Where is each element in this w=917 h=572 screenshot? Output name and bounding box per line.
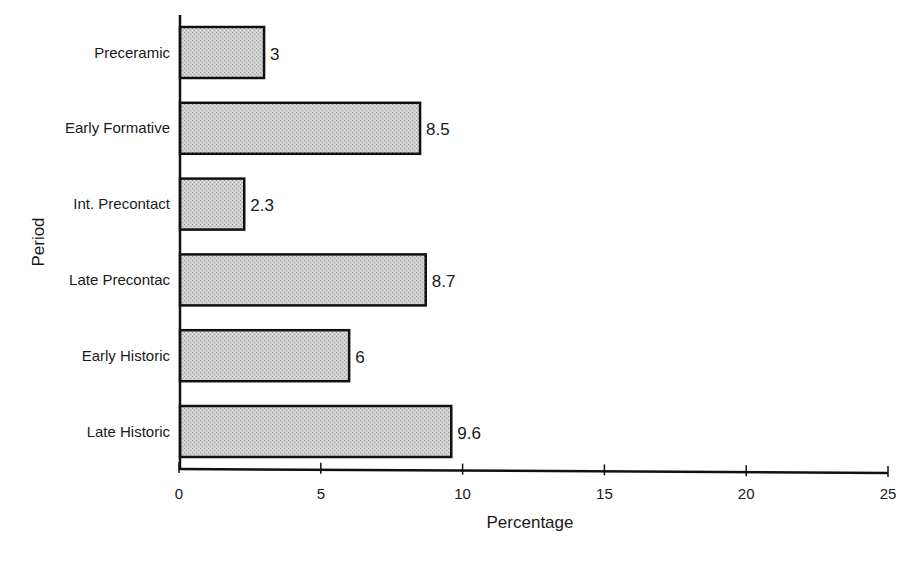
bar-late-historic bbox=[180, 406, 451, 457]
value-label-late-precontac: 8.7 bbox=[432, 272, 456, 291]
x-axis-tick-labels: 0510152025 bbox=[175, 485, 897, 502]
x-tick-label-5: 5 bbox=[317, 485, 325, 502]
x-tick-label-25: 25 bbox=[880, 485, 897, 502]
bar-late-precontac bbox=[180, 254, 426, 305]
category-label-early-formative: Early Formative bbox=[65, 119, 170, 136]
x-tick-label-10: 10 bbox=[454, 485, 471, 502]
value-label-late-historic: 9.6 bbox=[457, 424, 481, 443]
category-label-late-historic: Late Historic bbox=[87, 423, 171, 440]
value-label-int-precontact: 2.3 bbox=[250, 196, 274, 215]
category-label-early-historic: Early Historic bbox=[82, 347, 171, 364]
bar-preceramic bbox=[180, 27, 264, 78]
value-label-early-historic: 6 bbox=[355, 348, 364, 367]
x-axis-line bbox=[179, 469, 888, 473]
bars-group bbox=[180, 27, 451, 457]
category-label-int-precontact: Int. Precontact bbox=[73, 195, 171, 212]
bar-int-precontact bbox=[180, 179, 244, 230]
x-axis-title: Percentage bbox=[487, 513, 574, 532]
x-tick-label-0: 0 bbox=[175, 485, 183, 502]
category-label-late-precontac: Late Precontac bbox=[69, 271, 170, 288]
x-tick-label-15: 15 bbox=[596, 485, 613, 502]
bar-early-historic bbox=[180, 330, 349, 381]
value-label-preceramic: 3 bbox=[270, 45, 279, 64]
bar-early-formative bbox=[180, 103, 420, 154]
bar-chart: PreceramicEarly FormativeInt. Precontact… bbox=[0, 0, 917, 572]
category-labels: PreceramicEarly FormativeInt. Precontact… bbox=[65, 44, 171, 440]
value-label-early-formative: 8.5 bbox=[426, 120, 450, 139]
x-tick-label-20: 20 bbox=[738, 485, 755, 502]
category-label-preceramic: Preceramic bbox=[94, 44, 170, 61]
y-axis-title: Period bbox=[29, 217, 48, 266]
